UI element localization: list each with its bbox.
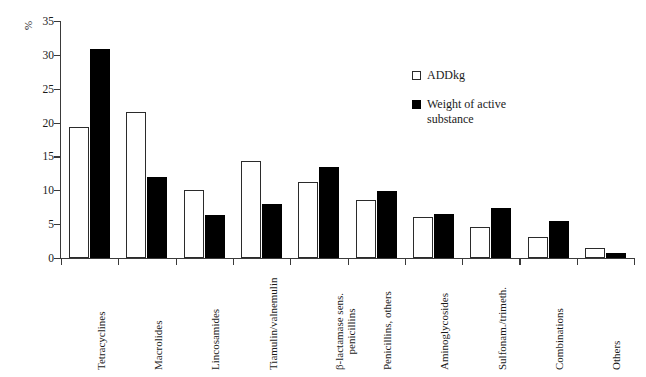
- x-axis-label-line: Penicillins, others: [381, 291, 393, 370]
- bar: [585, 248, 605, 258]
- bar: [356, 200, 376, 258]
- y-tick-label: 5: [32, 219, 54, 231]
- bar: [241, 161, 261, 259]
- x-axis-label-line: Tetracyclines: [95, 312, 107, 370]
- x-axis-label: β-lactamase sens.penicillins: [333, 293, 358, 370]
- x-axis-label-line: Aminoglycosides: [438, 293, 450, 370]
- bar-pair: [577, 21, 634, 258]
- bar: [413, 217, 433, 258]
- x-axis-label-line: penicillins: [345, 293, 357, 370]
- bar-pair: [233, 21, 290, 258]
- bar-pair: [61, 21, 118, 258]
- x-axis-label-line: Tiamulin/valnemulin: [267, 278, 279, 371]
- bar-pair: [118, 21, 175, 258]
- x-axis-label-line: Others: [610, 341, 622, 370]
- bar-group: [348, 21, 405, 258]
- legend: ADDkg Weight of active substance: [412, 68, 552, 141]
- bar-group: [61, 21, 118, 258]
- x-tick-mark: [118, 258, 119, 265]
- y-tick-mark: [54, 55, 61, 56]
- x-axis-label: Penicillins, others: [381, 291, 393, 370]
- x-tick-mark: [462, 258, 463, 265]
- legend-swatch-filled-square-icon: [412, 100, 421, 109]
- y-tick-mark: [54, 123, 61, 124]
- bar: [470, 227, 490, 258]
- x-axis-label: Others: [610, 341, 622, 370]
- bar-group: [118, 21, 175, 258]
- y-tick-mark: [54, 156, 61, 157]
- bar: [205, 215, 225, 258]
- x-axis-label: Tiamulin/valnemulin: [267, 278, 279, 371]
- bar: [147, 177, 167, 258]
- y-tick-label: 30: [32, 50, 54, 62]
- x-axis-label-line: β-lactamase sens.: [333, 293, 345, 370]
- bar-group: [233, 21, 290, 258]
- bar: [549, 221, 569, 258]
- x-tick-mark: [519, 258, 520, 265]
- x-tick-mark: [348, 258, 349, 265]
- legend-label: Weight of active substance: [427, 97, 552, 127]
- x-tick-mark: [290, 258, 291, 265]
- bar-pair: [348, 21, 405, 258]
- y-tick-mark: [54, 258, 61, 259]
- x-axis-label: Combinations: [553, 308, 565, 370]
- y-tick-mark: [54, 21, 61, 22]
- y-tick-label: 10: [32, 185, 54, 197]
- x-axis-label: Aminoglycosides: [438, 293, 450, 370]
- bar-pair: [176, 21, 233, 258]
- x-tick-mark: [405, 258, 406, 265]
- y-tick-label: 20: [32, 118, 54, 130]
- x-tick-mark: [61, 258, 62, 265]
- bar: [377, 191, 397, 258]
- x-tick-mark: [634, 258, 635, 265]
- x-axis-label-line: Combinations: [553, 308, 565, 370]
- legend-swatch-open-square-icon: [412, 71, 421, 80]
- x-tick-mark: [176, 258, 177, 265]
- legend-item: ADDkg: [412, 68, 552, 83]
- x-axis-label: Lincosamides: [209, 309, 221, 370]
- bar: [528, 237, 548, 258]
- x-tick-mark: [577, 258, 578, 265]
- x-axis-label-line: Sulfonam./trimeth.: [496, 287, 508, 370]
- bar-group: [290, 21, 347, 258]
- y-tick-label: 15: [32, 151, 54, 163]
- bar-pair: [290, 21, 347, 258]
- legend-item: Weight of active substance: [412, 97, 552, 127]
- bar: [298, 182, 318, 258]
- y-tick-label: 25: [32, 84, 54, 96]
- bar: [69, 127, 89, 258]
- x-axis-label-line: Lincosamides: [209, 309, 221, 370]
- bar: [434, 214, 454, 258]
- y-tick-mark: [54, 224, 61, 225]
- legend-label: ADDkg: [427, 68, 465, 83]
- bar-group: [577, 21, 634, 258]
- x-axis-label: Macrolides: [152, 321, 164, 370]
- bar: [184, 190, 204, 258]
- y-tick-label: 35: [32, 16, 54, 28]
- x-axis-label: Sulfonam./trimeth.: [496, 287, 508, 370]
- x-axis-label: Tetracyclines: [95, 312, 107, 370]
- bar: [126, 112, 146, 258]
- y-tick-label: 0: [32, 253, 54, 265]
- bar: [491, 208, 511, 258]
- bar: [319, 167, 339, 258]
- y-tick-mark: [54, 89, 61, 90]
- bar: [90, 49, 110, 258]
- y-tick-mark: [54, 190, 61, 191]
- x-axis-label-line: Macrolides: [152, 321, 164, 370]
- bar-group: [176, 21, 233, 258]
- bar-chart: % 05101520253035 TetracyclinesMacrolides…: [0, 0, 646, 377]
- x-tick-mark: [233, 258, 234, 265]
- bar: [262, 204, 282, 258]
- bar: [606, 253, 626, 258]
